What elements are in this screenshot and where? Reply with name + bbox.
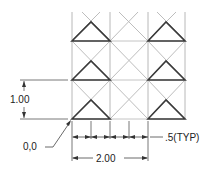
horizontal-dimension-label: 2.00	[96, 153, 116, 164]
arrow-up-icon	[22, 81, 26, 87]
arrow-down-icon	[22, 112, 26, 118]
arrow-left-icon	[110, 135, 116, 139]
arrow-right-icon	[85, 135, 91, 139]
triangles	[72, 22, 185, 119]
triangle-shape	[72, 100, 110, 119]
arrow-left-icon	[129, 135, 135, 139]
triangle-shape	[148, 100, 185, 119]
arrow-right-icon	[104, 135, 110, 139]
arrow-left-icon	[91, 135, 97, 139]
leader-line	[45, 122, 70, 147]
arrow-right-icon	[142, 156, 148, 160]
triangle-shape	[72, 61, 110, 80]
triangle-shape	[72, 22, 110, 41]
origin-label: 0,0	[23, 141, 37, 152]
technical-drawing: 1.00 0,0 .5(TYP)	[0, 0, 219, 169]
arrow-left-icon	[72, 156, 78, 160]
vertical-dimension-label: 1.00	[10, 94, 30, 105]
step-dimension-label: .5(TYP)	[165, 132, 199, 143]
triangle-shape	[148, 61, 185, 80]
arrow-right-icon	[123, 135, 129, 139]
arrow-left-icon	[72, 135, 78, 139]
arrow-right-icon	[142, 135, 148, 139]
origin-leader	[45, 122, 70, 147]
leader-arrow-icon	[66, 120, 71, 126]
triangle-shape	[148, 22, 185, 41]
